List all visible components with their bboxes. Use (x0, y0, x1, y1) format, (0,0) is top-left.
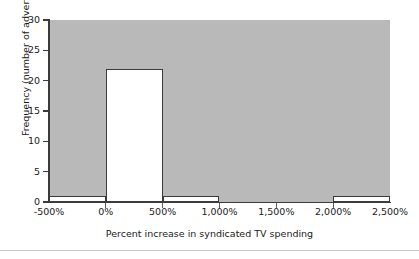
y-tick-mark (43, 141, 48, 142)
x-axis-title: Percent increase in syndicated TV spendi… (0, 228, 419, 239)
x-tick-label: 1,500% (246, 207, 306, 217)
y-tick-mark (43, 19, 48, 20)
y-axis-line (48, 19, 50, 203)
x-tick-label: 500% (133, 207, 193, 217)
x-tick-label: 2,500% (360, 207, 419, 217)
y-tick-label: 10 (10, 136, 40, 146)
y-tick-label: 25 (10, 45, 40, 55)
y-tick-label: 15 (10, 106, 40, 116)
histogram-bar (49, 196, 106, 202)
y-tick-label: 30 (10, 15, 40, 25)
y-tick-label: 5 (10, 167, 40, 177)
x-tick-label: -500% (19, 207, 79, 217)
histogram-bar (333, 196, 390, 202)
histogram-bar (106, 69, 163, 202)
y-tick-mark (43, 110, 48, 111)
y-tick-mark (43, 50, 48, 51)
y-tick-mark (43, 201, 48, 202)
bottom-divider (0, 250, 419, 251)
x-tick-label: 1,000% (190, 207, 250, 217)
x-tick-label: 0% (76, 207, 136, 217)
x-tick-label: 2,000% (303, 207, 363, 217)
y-tick-mark (43, 171, 48, 172)
histogram-figure: Frequency (number of advertisers) 051015… (0, 0, 419, 259)
y-tick-mark (43, 80, 48, 81)
y-tick-label: 20 (10, 76, 40, 86)
histogram-bar (163, 196, 220, 202)
plot-area (49, 20, 390, 202)
